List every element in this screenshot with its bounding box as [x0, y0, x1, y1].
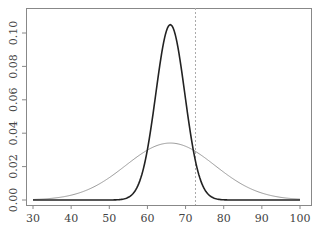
- x-tick-label: 80: [217, 212, 231, 225]
- y-tick-label: 0.06: [7, 88, 20, 113]
- x-tick-label: 40: [64, 212, 78, 225]
- x-axis: 30405060708090100: [26, 205, 311, 225]
- y-axis: 0.000.020.040.060.080.10: [7, 21, 26, 213]
- y-tick-label: 0.00: [7, 188, 20, 213]
- y-tick-label: 0.08: [7, 54, 20, 79]
- plot-frame: [27, 9, 312, 206]
- x-tick-label: 90: [255, 212, 269, 225]
- y-tick-label: 0.02: [7, 154, 20, 179]
- x-tick-label: 70: [179, 212, 193, 225]
- y-tick-label: 0.10: [7, 21, 20, 46]
- density-curve: [33, 25, 300, 200]
- y-tick-label: 0.04: [7, 121, 20, 146]
- density-curve: [33, 143, 300, 199]
- x-tick-label: 60: [140, 212, 154, 225]
- x-tick-label: 100: [290, 212, 311, 225]
- x-tick-label: 50: [102, 212, 116, 225]
- density-chart: 0.000.020.040.060.080.10 304050607080901…: [0, 0, 318, 231]
- density-curves: [33, 25, 300, 200]
- x-tick-label: 30: [26, 212, 40, 225]
